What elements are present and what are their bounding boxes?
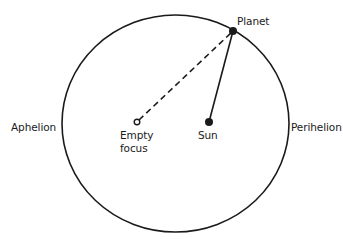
sun-dot: [205, 118, 213, 126]
sun-to-planet-line: [209, 31, 233, 122]
empty-focus-label-line2: focus: [120, 142, 148, 154]
empty-focus-to-planet-dashed-line: [139, 32, 232, 120]
aphelion-label: Aphelion: [11, 121, 56, 133]
empty-focus-label-line1: Empty: [120, 129, 153, 141]
planet-label: Planet: [237, 15, 269, 27]
empty-focus-marker: [134, 119, 140, 125]
orbit-ellipse: [62, 15, 289, 232]
perihelion-label: Perihelion: [291, 121, 342, 133]
planet-dot: [229, 27, 237, 35]
orbit-diagram: [0, 0, 343, 239]
sun-label: Sun: [198, 129, 218, 141]
